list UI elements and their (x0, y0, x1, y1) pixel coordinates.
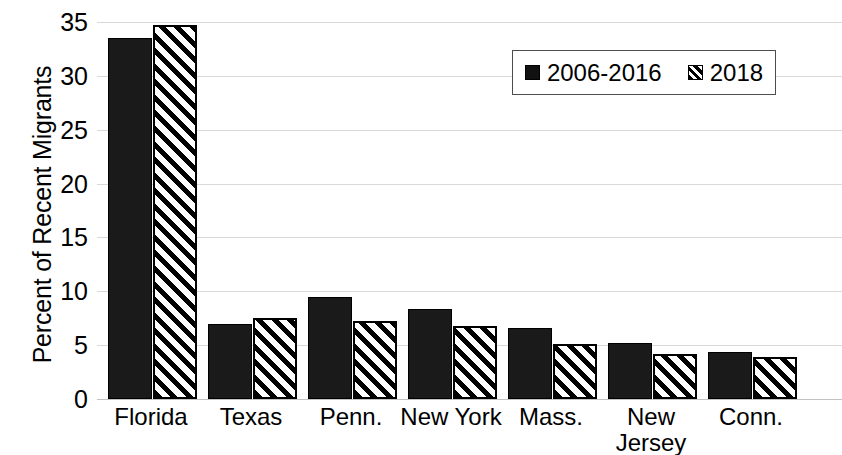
y-tick-label: 35 (36, 10, 88, 35)
x-tick-label-line: New (627, 403, 675, 430)
x-tick-label: Florida (96, 404, 206, 430)
legend-entry: 2006-2016 (525, 61, 662, 85)
bar-series-2 (153, 25, 197, 399)
y-tick-label: 25 (36, 118, 88, 143)
bar-series-1 (708, 352, 752, 399)
legend-label: 2006-2016 (547, 61, 662, 85)
bar-group (101, 22, 201, 399)
gridline (97, 399, 842, 400)
bar-series-1 (208, 324, 252, 399)
bar-series-1 (408, 309, 452, 399)
hatched-square-icon (688, 65, 703, 80)
x-tick-label: New York (396, 404, 506, 430)
x-tick-label: Texas (196, 404, 306, 430)
bar-series-1 (508, 328, 552, 399)
bar-series-1 (308, 297, 352, 399)
y-tick-label: 0 (36, 387, 88, 412)
x-tick-label-line: Texas (220, 403, 283, 430)
x-tick-label-line: Penn. (320, 403, 383, 430)
legend: 2006-20162018 (512, 50, 776, 95)
y-tick-label: 20 (36, 172, 88, 197)
bar-series-1 (108, 38, 152, 399)
x-tick-label-line: Conn. (719, 403, 783, 430)
y-tick-label: 30 (36, 64, 88, 89)
bar-series-2 (253, 318, 297, 399)
bar-series-2 (553, 344, 597, 399)
x-tick-label-line: Mass. (519, 403, 583, 430)
x-tick-label: Mass. (496, 404, 606, 430)
bar-series-2 (453, 326, 497, 399)
x-tick-label-line: Florida (114, 403, 187, 430)
y-tick-label: 5 (36, 333, 88, 358)
x-tick-label: Conn. (696, 404, 806, 430)
legend-entry: 2018 (688, 61, 763, 85)
solid-square-icon (525, 65, 540, 80)
bar-series-2 (353, 321, 397, 399)
legend-label: 2018 (710, 61, 763, 85)
bar-series-2 (753, 357, 797, 399)
bar-series-1 (608, 343, 652, 399)
bar-chart: Percent of Recent Migrants 3530252015105… (0, 0, 842, 455)
bar-series-2 (653, 354, 697, 399)
x-tick-label: Penn. (296, 404, 406, 430)
x-tick-label-line: Jersey (596, 430, 706, 455)
bar-group (401, 22, 501, 399)
bar-group (301, 22, 401, 399)
y-tick-label: 15 (36, 225, 88, 250)
x-tick-label: NewJersey (596, 404, 706, 455)
bar-group (201, 22, 301, 399)
x-tick-label-line: New York (400, 403, 501, 430)
y-tick-label: 10 (36, 279, 88, 304)
x-axis-tick-labels: FloridaTexasPenn.New YorkMass.NewJerseyC… (97, 404, 842, 455)
